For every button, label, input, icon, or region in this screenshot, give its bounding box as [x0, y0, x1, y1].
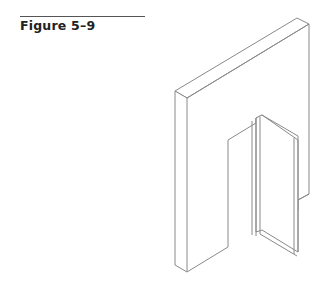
wall-door-illustration [0, 0, 332, 282]
